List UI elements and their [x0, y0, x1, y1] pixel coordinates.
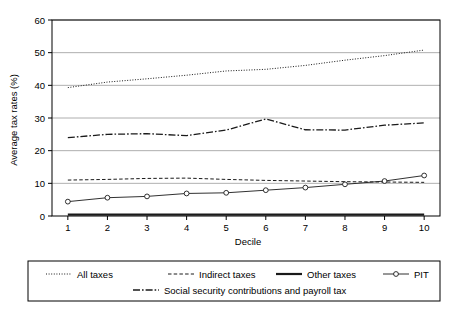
- series-marker-3-7: [343, 182, 348, 187]
- legend-entry-4: Social security contributions and payrol…: [133, 285, 346, 296]
- y-tick-label-60: 60: [34, 15, 45, 26]
- series-marker-3-5: [263, 188, 268, 193]
- series-4: [68, 119, 424, 138]
- series-line-4: [68, 119, 424, 138]
- series-marker-3-3: [184, 191, 189, 196]
- y-tick-label-40: 40: [34, 80, 45, 91]
- legend-entry-2: Other taxes: [276, 269, 356, 280]
- y-tick-label-0: 0: [40, 211, 45, 222]
- x-tick-label-1: 1: [65, 222, 70, 233]
- y-tick-label-50: 50: [34, 47, 45, 58]
- legend-entry-0: All taxes: [46, 269, 113, 280]
- legend-label-0: All taxes: [77, 269, 113, 280]
- x-tick-label-3: 3: [144, 222, 149, 233]
- legend-marker-3: [394, 272, 399, 277]
- x-tick-label-9: 9: [382, 222, 387, 233]
- series-marker-3-9: [422, 173, 427, 178]
- series-marker-3-0: [65, 199, 70, 204]
- tax-rates-line-chart: 0102030405060 12345678910 Average tax ra…: [0, 0, 462, 309]
- legend-label-4: Social security contributions and payrol…: [164, 285, 346, 296]
- y-tick-label-10: 10: [34, 178, 45, 189]
- x-tick-label-7: 7: [303, 222, 308, 233]
- y-tick-label-20: 20: [34, 145, 45, 156]
- series-3: [65, 173, 426, 204]
- y-axis-ticks: [48, 20, 52, 216]
- series-marker-3-6: [303, 185, 308, 190]
- series-marker-3-1: [105, 195, 110, 200]
- series-marker-3-4: [224, 190, 229, 195]
- series-line-0: [68, 50, 424, 88]
- x-tick-label-6: 6: [263, 222, 268, 233]
- legend-entry-1: Indirect taxes: [168, 269, 256, 280]
- series-0: [68, 50, 424, 88]
- legend-label-1: Indirect taxes: [199, 269, 256, 280]
- x-tick-label-4: 4: [184, 222, 189, 233]
- x-tick-label-5: 5: [224, 222, 229, 233]
- x-tick-label-2: 2: [105, 222, 110, 233]
- series-1: [68, 178, 424, 182]
- legend-label-2: Other taxes: [307, 269, 356, 280]
- legend-entry-3: PIT: [383, 269, 429, 280]
- figure-container: 0102030405060 12345678910 Average tax ra…: [0, 0, 462, 309]
- x-axis-title: Decile: [235, 236, 261, 247]
- x-tick-label-8: 8: [342, 222, 347, 233]
- legend: All taxesIndirect taxesOther taxesPITSoc…: [28, 261, 440, 301]
- series-marker-3-2: [145, 194, 150, 199]
- x-axis-tick-labels: 12345678910: [65, 222, 429, 233]
- legend-label-3: PIT: [414, 269, 429, 280]
- series-line-1: [68, 178, 424, 182]
- x-axis-ticks: [68, 216, 424, 220]
- series-marker-3-8: [382, 179, 387, 184]
- data-series-group: [65, 50, 426, 215]
- y-tick-label-30: 30: [34, 113, 45, 124]
- plot-gridlines: [52, 20, 440, 183]
- y-axis-title: Average tax rates (%): [8, 74, 19, 166]
- x-tick-label-10: 10: [419, 222, 430, 233]
- y-axis-tick-labels: 0102030405060: [34, 15, 45, 222]
